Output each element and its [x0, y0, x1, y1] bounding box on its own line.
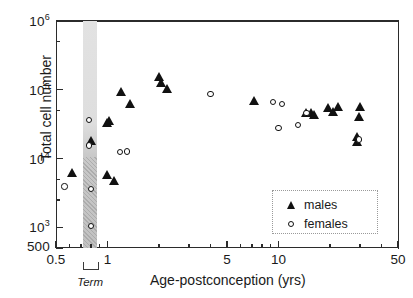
y-axis-title: Total cell number	[38, 23, 54, 193]
y-tick-major	[56, 247, 63, 248]
data-point-female	[124, 148, 130, 154]
x-tick-label: 50	[373, 252, 413, 267]
x-tick-minor	[329, 244, 330, 248]
legend-label-females: females	[304, 217, 348, 231]
open-circle-icon	[283, 221, 299, 227]
x-tick-minor	[210, 244, 211, 248]
y-tick-label: 106	[2, 12, 50, 29]
legend: males females	[272, 190, 378, 234]
data-point-female	[295, 122, 301, 128]
data-point-male	[355, 102, 365, 111]
x-tick-minor	[270, 244, 271, 248]
data-point-female	[86, 142, 92, 148]
data-point-female	[275, 125, 281, 131]
x-tick-minor	[359, 244, 360, 248]
data-point-female	[207, 91, 213, 97]
data-point-male	[309, 110, 319, 119]
filled-triangle-icon	[283, 201, 299, 209]
x-tick-minor	[240, 244, 241, 248]
y-tick-major	[56, 20, 63, 21]
data-point-male	[354, 112, 364, 121]
y-tick-label: 104	[2, 150, 50, 167]
data-point-male	[125, 99, 135, 108]
x-tick-label: 10	[253, 252, 303, 267]
x-tick-major	[226, 241, 227, 248]
data-point-female	[303, 110, 309, 116]
data-point-female	[356, 136, 362, 142]
data-point-female	[88, 223, 94, 229]
x-tick-minor	[69, 244, 70, 248]
y-tick-minor	[56, 110, 60, 111]
scatter-chart-figure: Total cell number 106105104103500 0.5151…	[0, 0, 413, 298]
term-band-dither	[83, 157, 97, 248]
data-point-male	[249, 96, 259, 105]
x-tick-major	[278, 241, 279, 248]
x-tick-label: 0.5	[31, 252, 81, 267]
y-tick-label: 105	[2, 81, 50, 98]
legend-item-females: females	[283, 215, 377, 232]
data-point-female	[61, 183, 67, 189]
x-tick-minor	[381, 244, 382, 248]
term-bracket-icon	[83, 262, 99, 270]
x-tick-major	[107, 241, 108, 248]
data-point-male	[104, 116, 114, 125]
term-shaded-band	[83, 21, 97, 248]
x-tick-minor	[90, 244, 91, 248]
y-tick-label: 103	[2, 218, 50, 235]
x-tick-label: 5	[202, 252, 252, 267]
x-axis-title: Age-postconception (yrs)	[150, 272, 306, 288]
y-tick-minor	[56, 41, 60, 42]
x-tick-minor	[158, 244, 159, 248]
x-tick-minor	[188, 244, 189, 248]
data-point-male	[109, 176, 119, 185]
y-tick-minor	[56, 199, 60, 200]
y-tick-major	[56, 158, 63, 159]
data-point-female	[117, 149, 123, 155]
data-point-male	[67, 168, 77, 177]
term-label: Term	[65, 276, 115, 288]
x-tick-minor	[251, 244, 252, 248]
x-tick-minor	[80, 244, 81, 248]
x-tick-major	[55, 241, 56, 248]
y-tick-major	[56, 227, 63, 228]
data-point-male	[162, 84, 172, 93]
y-tick-minor	[56, 179, 60, 180]
x-tick-minor	[261, 244, 262, 248]
legend-item-males: males	[283, 196, 377, 213]
x-tick-major	[397, 241, 398, 248]
x-tick-minor	[99, 244, 100, 248]
data-point-male	[116, 87, 126, 96]
y-tick-major	[56, 89, 63, 90]
legend-label-males: males	[304, 198, 337, 212]
data-point-male	[333, 102, 343, 111]
